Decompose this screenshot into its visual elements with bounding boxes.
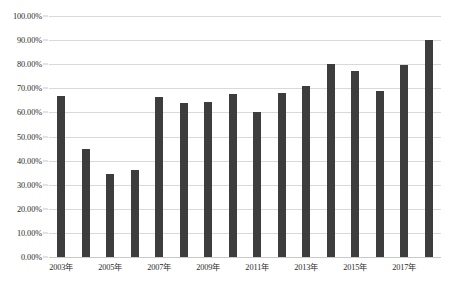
x-tick-label: 2015年 xyxy=(343,260,367,272)
bar xyxy=(327,64,335,257)
x-axis: 2003年2005年2007年2009年2011年2013年2015年2017年 xyxy=(49,258,441,280)
bar xyxy=(57,96,65,257)
x-tick-label: 2009年 xyxy=(196,260,220,272)
y-tick-mark xyxy=(43,112,48,113)
y-tick-mark xyxy=(43,232,48,233)
y-tick-label: 60.00% xyxy=(17,108,42,117)
bar xyxy=(351,71,359,257)
y-tick-label: 30.00% xyxy=(17,180,42,189)
y-tick-mark xyxy=(43,160,48,161)
plot-area xyxy=(49,16,441,257)
bar xyxy=(376,91,384,257)
y-tick-label: 50.00% xyxy=(17,132,42,141)
bar xyxy=(229,94,237,257)
y-tick-label: 20.00% xyxy=(17,204,42,213)
bar xyxy=(155,97,163,257)
y-tick-mark xyxy=(43,40,48,41)
y-tick-label: 90.00% xyxy=(17,36,42,45)
x-tick-label: 2013年 xyxy=(294,260,318,272)
bar-chart: 100.00%90.00%80.00%70.00%60.00%50.00%40.… xyxy=(0,0,449,293)
y-axis: 100.00%90.00%80.00%70.00%60.00%50.00%40.… xyxy=(0,0,49,293)
y-tick-mark xyxy=(43,184,48,185)
bar xyxy=(425,40,433,257)
y-tick-mark xyxy=(43,64,48,65)
bar xyxy=(204,102,212,257)
y-tick-mark xyxy=(43,88,48,89)
bar xyxy=(106,174,114,257)
y-tick-label: 100.00% xyxy=(13,12,42,21)
bar xyxy=(400,65,408,257)
x-tick-label: 2003年 xyxy=(49,260,73,272)
y-tick-label: 70.00% xyxy=(17,84,42,93)
bars-group xyxy=(49,16,441,257)
x-tick-label: 2011年 xyxy=(245,260,269,272)
bar xyxy=(82,149,90,257)
y-tick-label: 0.00% xyxy=(21,253,42,262)
x-tick-label: 2005年 xyxy=(98,260,122,272)
y-tick-label: 40.00% xyxy=(17,156,42,165)
x-tick-label: 2007年 xyxy=(147,260,171,272)
y-tick-mark xyxy=(43,16,48,17)
bar xyxy=(278,93,286,257)
bar xyxy=(253,112,261,257)
x-tick-label: 2017年 xyxy=(392,260,416,272)
bar xyxy=(131,170,139,257)
y-tick-mark xyxy=(43,136,48,137)
y-tick-label: 80.00% xyxy=(17,60,42,69)
bar xyxy=(302,86,310,257)
y-tick-mark xyxy=(43,257,48,258)
y-tick-label: 10.00% xyxy=(17,228,42,237)
y-tick-mark xyxy=(43,208,48,209)
bar xyxy=(180,103,188,257)
